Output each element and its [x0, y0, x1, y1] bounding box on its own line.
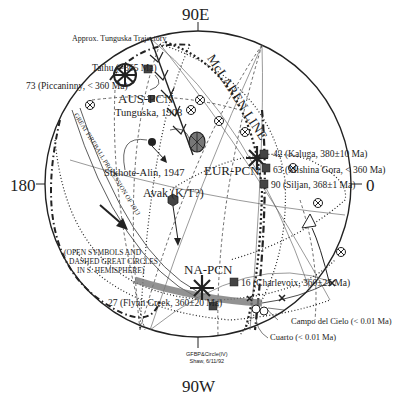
tunguska-oval — [189, 132, 205, 152]
hemisphere-note: (OPEN SYMBOLS AND DASHED GREAT CIRCLES I… — [64, 248, 158, 275]
aus-pcn-label: AUS-PCN — [118, 92, 174, 105]
hemisphere-note-line2: DASHED GREAT CIRCLES — [64, 257, 158, 266]
site-label-avak: Avak (K/T?) — [143, 187, 204, 199]
open-arrow-head — [302, 214, 316, 228]
credit-block: GFBP&Circle(IV) Shaw, 6/11/92 — [186, 351, 228, 364]
axis-label-left: 180 — [10, 177, 36, 194]
site-label-siljan: 90 (Siljan, 368±1 Ma) — [271, 181, 355, 191]
dash-dot-arc-left — [51, 120, 160, 318]
credit-line1: GFBP&Circle(IV) — [186, 351, 228, 358]
site-label-mishina-gora: 63 (Mishina Gora, < 360 Ma) — [273, 166, 385, 176]
cuarto-circle — [260, 307, 268, 315]
pointer-campo-2 — [268, 308, 284, 310]
projection-graphics — [0, 0, 402, 400]
hemisphere-note-line3: IN S. HEMISPHERE) — [64, 266, 158, 275]
credit-line2: Shaw, 6/11/92 — [186, 358, 228, 365]
site-label-tunguska: Tunguska, 1908 — [115, 108, 182, 119]
dash-dot-arc-right — [255, 110, 265, 330]
pointer-sikhote — [124, 139, 147, 170]
site-label-charlevoix: 16 (Charlevoix, 360±25 Ma) — [241, 279, 350, 289]
hemisphere-note-line1: (OPEN SYMBOLS AND — [64, 248, 158, 257]
pointer-cuarto — [256, 313, 268, 338]
site-label-campo-del-cielo: Campo del Cielo (< 0.01 Ma) — [291, 317, 392, 326]
projection-diagram: 90E 90W 180 0 Approx. Tunguska Trajector… — [0, 0, 402, 400]
na-pcn-label: NA-PCN — [184, 263, 232, 276]
axis-label-top: 90E — [182, 6, 209, 23]
site-label-piccaninny: 73 (Piccaninny, < 360 Ma) — [26, 82, 128, 92]
eur-pcn-label: EUR-PCN — [204, 164, 260, 177]
axis-label-bottom: 90W — [182, 378, 215, 395]
sikhote-alin-dot — [148, 138, 156, 146]
axis-label-right: 0 — [366, 177, 375, 194]
site-label-taihu: Taihu (~365 Ma) — [92, 64, 157, 74]
site-label-cuarto: Cuarto (< 0.01 Ma) — [270, 333, 336, 342]
campo-circle — [252, 305, 260, 313]
site-label-sikhote-alin: Sikhote-Alin, 1947 — [104, 168, 185, 179]
site-label-flynn-creek: 27 (Flynn Creek, 360±20 Ma) — [108, 299, 222, 309]
pointer-taihu — [150, 75, 159, 90]
trajectory-label: Approx. Tunguska Trajectory — [72, 35, 166, 43]
site-label-kaluga: 42 (Kaluga, 380±10 Ma) — [273, 150, 367, 160]
